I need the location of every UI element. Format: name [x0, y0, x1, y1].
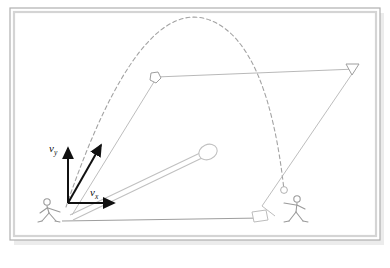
projectile-motion-figure: vy vx — [0, 0, 390, 268]
blade-head-icon — [252, 210, 268, 222]
ghost-position-landing-circle-icon — [281, 187, 288, 194]
figure-canvas: vy vx — [0, 0, 390, 268]
thrower-head-icon — [44, 199, 50, 205]
catcher-head-icon — [294, 196, 300, 202]
